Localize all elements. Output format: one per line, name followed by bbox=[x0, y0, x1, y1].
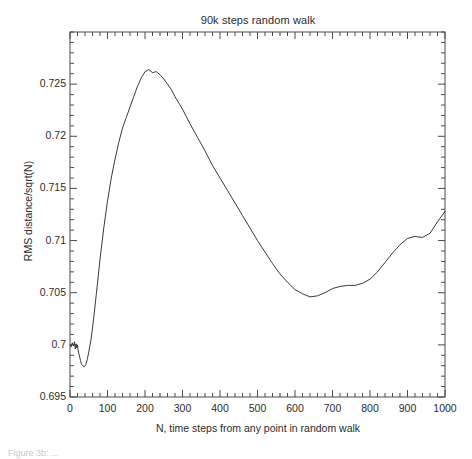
y-tick-label: 0.725 bbox=[20, 77, 66, 89]
y-tick-label: 0.715 bbox=[20, 181, 66, 193]
data-series-line bbox=[70, 70, 445, 367]
y-tick-label: 0.705 bbox=[20, 286, 66, 298]
y-tick-label: 0.7 bbox=[20, 338, 66, 350]
axis-ticks bbox=[70, 32, 445, 397]
figure-caption-fragment: Figure 3b: ... bbox=[8, 448, 59, 459]
chart-title: 90k steps random walk bbox=[70, 14, 446, 26]
y-tick-label: 0.695 bbox=[20, 390, 66, 402]
x-axis-label: N, time steps from any point in random w… bbox=[70, 422, 446, 434]
line-chart-plot bbox=[0, 0, 472, 459]
y-axis-tick-labels: 0.6950.70.7050.710.7150.720.725 bbox=[14, 0, 66, 459]
y-tick-label: 0.72 bbox=[20, 129, 66, 141]
y-tick-label: 0.71 bbox=[20, 234, 66, 246]
axes-frame bbox=[70, 32, 445, 397]
x-tick-label: 1000 bbox=[415, 402, 472, 414]
figure-container: 90k steps random walk RMS distance/sqrt(… bbox=[0, 0, 472, 459]
